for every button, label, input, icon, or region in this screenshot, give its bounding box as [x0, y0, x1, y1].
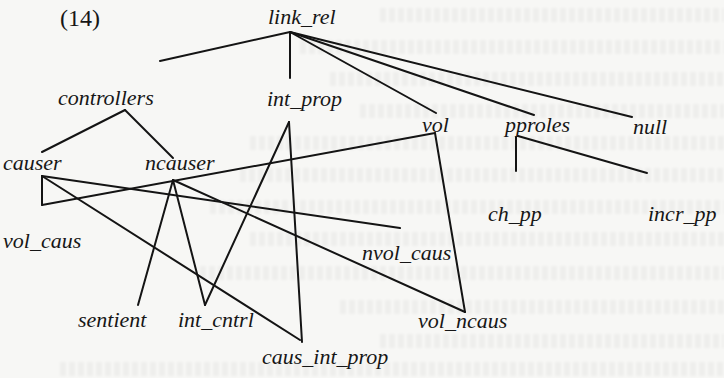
edge-int_prop-caus_int_prop	[289, 122, 302, 342]
node-causer: causer	[3, 152, 62, 174]
edge-vol-vol_caus	[42, 133, 435, 205]
node-link_rel: link_rel	[268, 6, 336, 28]
node-int_cntrl: int_cntrl	[178, 309, 254, 331]
node-null: null	[633, 116, 667, 138]
node-sentient: sentient	[78, 309, 146, 331]
edge-vol-vol_ncaus	[435, 133, 465, 312]
edge-link_rel-controllers	[160, 32, 290, 61]
example-number: (14)	[60, 6, 100, 30]
node-nvol_caus: nvol_caus	[362, 242, 451, 264]
node-vol_ncaus: vol_ncaus	[418, 310, 507, 332]
node-controllers: controllers	[58, 87, 154, 109]
node-ch_pp: ch_pp	[488, 203, 542, 225]
node-vol: vol	[422, 114, 449, 136]
edge-pproles-incr_pp	[518, 136, 647, 173]
diagram-canvas: (14) link_rel controllers int_prop vol p…	[0, 0, 724, 378]
node-incr_pp: incr_pp	[648, 203, 716, 225]
node-int_prop: int_prop	[267, 88, 342, 110]
edge-ncauser-sentient	[138, 180, 173, 305]
node-caus_int_prop: caus_int_prop	[262, 346, 388, 368]
node-pproles: pproles	[505, 114, 570, 136]
node-vol_caus: vol_caus	[3, 230, 81, 252]
edge-controllers-causer	[42, 110, 125, 152]
node-ncauser: ncauser	[145, 152, 215, 174]
